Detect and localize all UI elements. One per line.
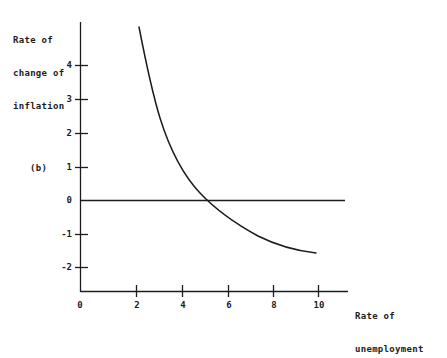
x-axis-title-line-1: Rate of: [355, 311, 424, 322]
y-tick-label-minus-2: -2: [45, 262, 72, 272]
phillips-curve-line: [139, 27, 316, 253]
x-tick-label-10: 10: [310, 300, 328, 310]
x-tick-label-6: 6: [220, 300, 238, 310]
x-tick-label-4: 4: [174, 300, 192, 310]
y-tick-label-1: 1: [50, 162, 72, 172]
y-axis-ticks: [75, 66, 88, 268]
y-tick-label-minus-1: -1: [45, 229, 72, 239]
panel-label: (b): [30, 163, 47, 174]
x-axis-title: Rate of unemployment: [355, 289, 424, 358]
x-tick-label-8: 8: [265, 300, 283, 310]
x-tick-label-2: 2: [128, 300, 146, 310]
y-axis-title: Rate of change of inflation: [13, 13, 64, 134]
x-axis-title-line-2: unemployment: [355, 344, 424, 355]
y-tick-label-0: 0: [50, 195, 72, 205]
y-tick-label-2: 2: [50, 128, 72, 138]
y-tick-label-3: 3: [50, 94, 72, 104]
y-axis-title-line-1: Rate of: [13, 35, 64, 46]
y-tick-label-4: 4: [50, 60, 72, 70]
x-tick-label-0: 0: [71, 300, 89, 310]
